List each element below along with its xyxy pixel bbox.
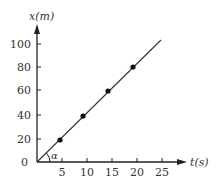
data-point bbox=[130, 64, 135, 69]
y-axis-label: x(m) bbox=[29, 10, 54, 23]
x-axis-arrow-icon bbox=[177, 159, 187, 165]
origin-label: 0 bbox=[21, 156, 28, 169]
data-point bbox=[105, 88, 110, 93]
y-tick-label: 40 bbox=[17, 109, 31, 122]
angle-label: α bbox=[51, 150, 58, 161]
x-tick-label: 20 bbox=[130, 166, 144, 179]
data-line bbox=[37, 40, 161, 162]
y-tick-label: 80 bbox=[17, 61, 31, 74]
y-tick-label: 60 bbox=[17, 84, 31, 97]
y-axis-arrow-icon bbox=[34, 24, 40, 34]
x-tick-label: 15 bbox=[105, 166, 119, 179]
x-tick-label: 5 bbox=[59, 166, 66, 179]
y-tick-label: 20 bbox=[17, 133, 31, 146]
x-tick-label: 10 bbox=[80, 166, 94, 179]
x-axis-label: t(s) bbox=[190, 156, 209, 169]
data-point bbox=[57, 137, 62, 142]
x-tick-label: 25 bbox=[155, 166, 169, 179]
x-t-chart: 20 40 60 80 100 0 5 10 15 20 25 x(m) t(s… bbox=[0, 0, 219, 186]
angle-arc bbox=[46, 153, 50, 162]
y-tick-label: 100 bbox=[10, 38, 31, 51]
data-point bbox=[80, 113, 85, 118]
